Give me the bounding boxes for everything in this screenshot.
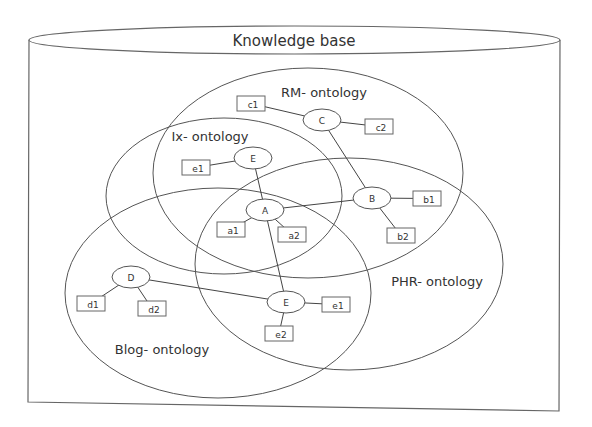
property-node-a2: a2 xyxy=(278,227,306,242)
property-label: b2 xyxy=(397,232,408,242)
concept-label: A xyxy=(262,206,269,216)
concept-nodes: CEABDE xyxy=(112,109,391,313)
concept-label: B xyxy=(369,194,375,204)
phr-ontology-ellipse xyxy=(195,158,503,370)
property-node-e1b: e1 xyxy=(322,297,350,312)
concept-label: E xyxy=(283,298,289,308)
property-node-d2: d2 xyxy=(138,301,166,316)
concept-node-B: B xyxy=(353,187,391,209)
property-node-e1a: e1 xyxy=(182,160,210,175)
ix-ontology-label: Ix- ontology xyxy=(171,129,248,144)
concept-node-E2: E xyxy=(267,291,305,313)
property-label: c1 xyxy=(248,100,259,110)
property-node-d1: d1 xyxy=(77,296,105,311)
concept-label: D xyxy=(128,273,135,283)
knowledge-base-title: Knowledge base xyxy=(233,32,356,50)
property-node-c2: c2 xyxy=(365,119,393,134)
concept-label: E xyxy=(250,154,256,164)
edge-A-E2 xyxy=(265,210,286,302)
rm-ontology-label: RM- ontology xyxy=(281,85,367,100)
knowledge-base-cylinder: Knowledge base xyxy=(28,26,560,411)
property-node-a1: a1 xyxy=(217,222,245,237)
concept-node-E1: E xyxy=(234,147,272,169)
blog-ontology-label: Blog- ontology xyxy=(115,342,210,357)
property-node-b2: b2 xyxy=(387,228,415,243)
knowledge-base-diagram: Knowledge base c1c2e1a1a2b1b2d1d2e1e2 CE… xyxy=(0,0,592,427)
property-label: b1 xyxy=(423,195,434,205)
property-label: c2 xyxy=(376,123,387,133)
phr-ontology-label: PHR- ontology xyxy=(391,274,483,289)
concept-label: C xyxy=(319,116,325,126)
property-label: d2 xyxy=(148,305,159,315)
property-label: a1 xyxy=(227,226,238,236)
property-label: e2 xyxy=(275,330,286,340)
blog-ontology-ellipse xyxy=(65,188,371,398)
concept-node-A: A xyxy=(246,199,284,221)
concept-node-C: C xyxy=(303,109,341,131)
property-node-b1: b1 xyxy=(413,191,441,206)
property-label: e1 xyxy=(332,301,343,311)
concept-node-D: D xyxy=(112,266,150,288)
edge-D-E2 xyxy=(131,277,286,302)
property-label: a2 xyxy=(288,231,299,241)
property-label: d1 xyxy=(87,300,98,310)
property-label: e1 xyxy=(192,164,203,174)
property-node-e2: e2 xyxy=(265,326,293,341)
property-node-c1: c1 xyxy=(237,96,265,111)
